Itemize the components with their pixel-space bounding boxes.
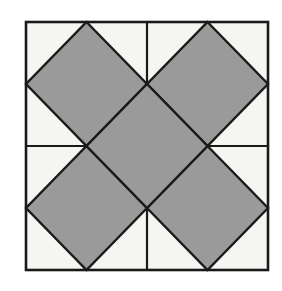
quilt-block-figure (0, 0, 282, 291)
